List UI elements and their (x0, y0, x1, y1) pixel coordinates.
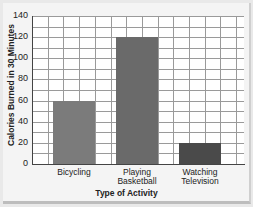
grid-line-vertical (236, 16, 237, 164)
grid-line-vertical (111, 16, 112, 164)
grid-line-vertical (173, 16, 174, 164)
y-tick-label: 140 (8, 10, 28, 20)
y-axis-label: Calories Burned in 30 Minutes (6, 36, 16, 146)
plot-area (32, 16, 244, 164)
grid-line-vertical (158, 16, 159, 164)
x-axis-label: Type of Activity (0, 188, 253, 198)
bar-bicycling (53, 101, 95, 164)
grid-line-vertical (205, 16, 206, 164)
x-tick-label: Bicycling (44, 168, 104, 177)
bar-watching-television (179, 143, 221, 164)
x-tick-label: PlayingBasketball (107, 168, 167, 186)
grid-line-vertical (48, 16, 49, 164)
grid-line-vertical (95, 16, 96, 164)
grid-line-vertical (189, 16, 190, 164)
y-axis-line (32, 16, 33, 165)
x-axis-line (32, 164, 245, 165)
bar-playing-basketball (116, 37, 158, 164)
grid-line-vertical (220, 16, 221, 164)
x-tick-label: WatchingTelevision (170, 168, 230, 186)
y-tick-label: 0 (8, 158, 28, 168)
